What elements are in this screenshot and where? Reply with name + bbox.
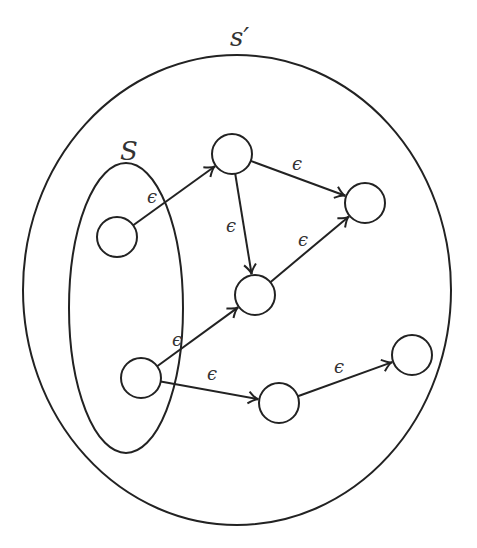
epsilon-label: ϵ [292, 153, 302, 174]
state-node-G [392, 335, 432, 375]
inner-set-label: S [120, 136, 138, 166]
inner-set-ellipse [69, 163, 183, 453]
epsilon-label: ϵ [147, 186, 157, 207]
epsilon-label: ϵ [226, 215, 236, 236]
edge-F-G [298, 360, 392, 396]
state-node-C [345, 183, 385, 223]
state-node-F [259, 383, 299, 423]
edge-E-D [157, 307, 238, 366]
epsilon-label: ϵ [172, 329, 182, 350]
state-node-A [97, 217, 137, 257]
epsilon-label: ϵ [207, 363, 217, 384]
edge-A-B [133, 166, 215, 225]
edge-B-D [235, 174, 256, 275]
nfa-epsilon-closure-diagram: s′Sϵϵϵϵϵϵϵ [0, 0, 477, 548]
state-node-B [212, 134, 252, 174]
state-node-D [235, 275, 275, 315]
epsilon-label: ϵ [334, 356, 344, 377]
outer-set-label: s′ [230, 22, 249, 52]
state-node-E [121, 358, 161, 398]
edge-D-C [270, 216, 349, 282]
epsilon-label: ϵ [298, 229, 308, 250]
edge-E-F [161, 382, 259, 404]
